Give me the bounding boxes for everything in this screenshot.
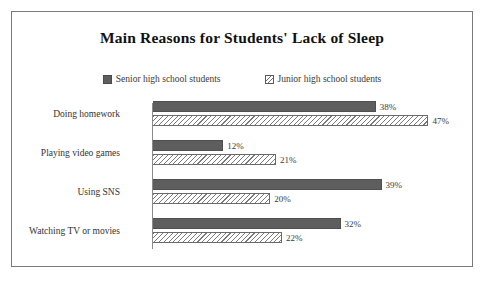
legend-label-senior: Senior high school students: [116, 74, 221, 84]
category-label: Doing homework: [0, 109, 120, 119]
chart-title: Main Reasons for Students' Lack of Sleep: [12, 29, 472, 47]
bar-group-senior: 32%: [153, 218, 361, 229]
category-label: Watching TV or movies: [0, 226, 120, 236]
bar-junior: [153, 154, 276, 165]
bar-junior: [153, 232, 282, 243]
bar-value-junior: 21%: [280, 155, 297, 165]
bar-value-senior: 38%: [380, 102, 397, 112]
legend-label-junior: Junior high school students: [278, 74, 382, 84]
chart-row: Playing video games 12% 21%: [12, 139, 472, 172]
bar-senior: [153, 101, 376, 112]
legend-swatch-senior-icon: [103, 75, 112, 84]
chart-row: Doing homework 38% 47%: [12, 100, 472, 133]
bar-senior: [153, 179, 382, 190]
bar-value-junior: 47%: [432, 116, 449, 126]
bar-value-junior: 22%: [286, 233, 303, 243]
bar-group-junior: 47%: [153, 115, 449, 126]
category-label: Using SNS: [0, 187, 120, 197]
row-bars: 39% 20%: [153, 178, 472, 211]
bar-group-junior: 22%: [153, 232, 302, 243]
row-bars: 32% 22%: [153, 217, 472, 250]
bar-junior: [153, 115, 428, 126]
legend-item-junior: Junior high school students: [265, 74, 382, 84]
bar-group-senior: 38%: [153, 101, 396, 112]
bar-senior: [153, 218, 341, 229]
plot-area: Doing homework 38% 47% Playing video gam…: [12, 100, 472, 256]
bar-group-senior: 39%: [153, 179, 402, 190]
bar-value-senior: 32%: [345, 219, 362, 229]
bar-group-junior: 20%: [153, 193, 291, 204]
chart-frame: Main Reasons for Students' Lack of Sleep…: [11, 11, 473, 267]
chart-legend: Senior high school students Junior high …: [12, 74, 472, 84]
bar-group-junior: 21%: [153, 154, 297, 165]
legend-swatch-junior-icon: [265, 75, 274, 84]
category-label: Playing video games: [0, 148, 120, 158]
bar-group-senior: 12%: [153, 140, 244, 151]
bar-senior: [153, 140, 223, 151]
row-bars: 12% 21%: [153, 139, 472, 172]
legend-item-senior: Senior high school students: [103, 74, 221, 84]
bar-value-senior: 12%: [227, 141, 244, 151]
bar-junior: [153, 193, 270, 204]
bar-value-senior: 39%: [386, 180, 403, 190]
chart-row: Using SNS 39% 20%: [12, 178, 472, 211]
chart-row: Watching TV or movies 32% 22%: [12, 217, 472, 250]
row-bars: 38% 47%: [153, 100, 472, 133]
bar-value-junior: 20%: [274, 194, 291, 204]
